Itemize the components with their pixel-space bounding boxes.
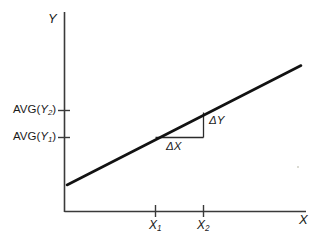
plot-canvas [0, 0, 323, 241]
regression-line [67, 66, 301, 186]
delta-x-label: ΔX [166, 141, 181, 153]
y-tick-label-avg-y1: AVG(Y1) [13, 131, 56, 143]
delta-y-label: ΔY [209, 115, 224, 127]
x-tick-label-x1: X1 [149, 219, 162, 231]
y-axis-label: Y [48, 12, 57, 25]
x-tick-label-x2: X2 [197, 219, 210, 231]
y-tick-label-avg-y2: AVG(Y2) [13, 104, 56, 116]
x-axis-label: X [299, 213, 308, 226]
figure-root: Y X AVG(Y2) AVG(Y1) X1 X2 ΔY ΔX [0, 0, 323, 241]
scan-speck [297, 166, 299, 168]
